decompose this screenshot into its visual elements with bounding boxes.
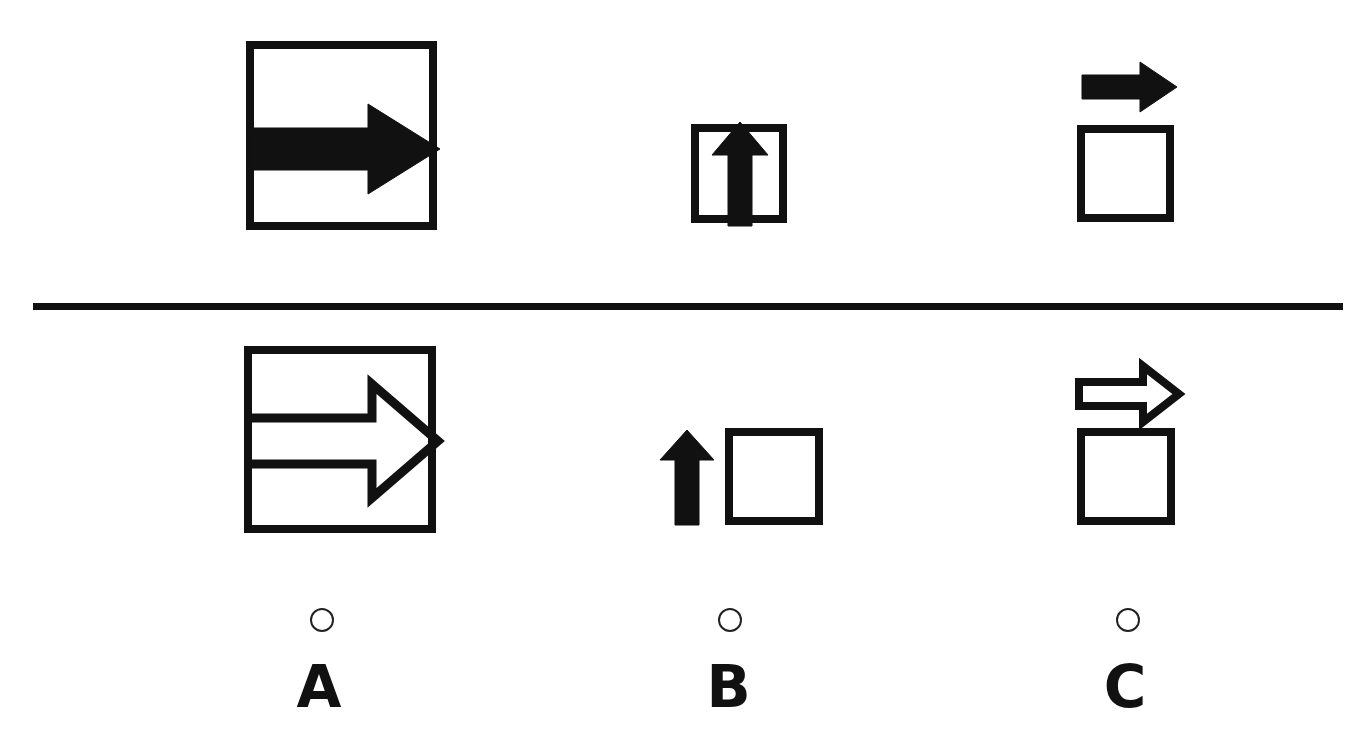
option-c[interactable]: C	[1078, 580, 1178, 730]
figure-top-b	[685, 115, 800, 235]
arrow-right-filled-top-a	[250, 104, 440, 194]
radio-circle-c[interactable]	[1116, 608, 1140, 632]
arrow-right-outline-bottom-a	[246, 384, 438, 498]
arrow-right-filled-top-c	[1082, 62, 1177, 112]
option-label-b: B	[680, 658, 777, 716]
top-row	[0, 0, 1357, 300]
figure-bottom-a	[238, 340, 448, 540]
radio-circle-a[interactable]	[310, 608, 334, 632]
answer-options: A B C	[0, 580, 1357, 733]
figure-top-a	[240, 35, 450, 240]
square-outline-bottom-b	[725, 428, 823, 525]
square-outline-top-c	[1077, 125, 1174, 222]
option-label-a: A	[272, 658, 366, 716]
option-b[interactable]: B	[680, 580, 780, 730]
arrow-right-outline-bottom-c	[1079, 366, 1179, 422]
figure-bottom-c	[1070, 360, 1195, 540]
figure-bottom-b	[655, 420, 835, 550]
arrow-up-filled-top-b	[712, 122, 768, 226]
square-outline-bottom-c	[1077, 428, 1175, 525]
question-canvas: A B C	[0, 0, 1357, 733]
bottom-row	[0, 320, 1357, 560]
arrow-up-filled-bottom-b	[660, 430, 714, 525]
option-label-c: C	[1078, 658, 1172, 716]
radio-circle-b[interactable]	[718, 608, 742, 632]
horizontal-rule	[33, 303, 1343, 310]
figure-top-c	[1070, 55, 1195, 235]
option-a[interactable]: A	[272, 580, 372, 730]
